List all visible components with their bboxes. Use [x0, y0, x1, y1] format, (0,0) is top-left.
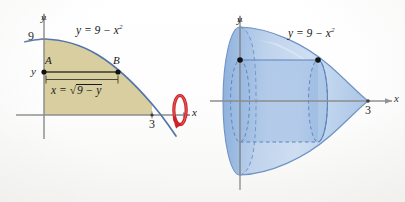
point-b-label: B [113, 55, 120, 66]
x-axis-label: x [192, 107, 197, 118]
figure-root: y x 9 3 y = 9 − x2 A B y x = √9 − y [0, 0, 405, 202]
shell-point-b-dot [315, 57, 321, 63]
curve-equation-text: y = 9 − x [288, 27, 331, 39]
y-axis-label: y [237, 14, 242, 25]
shaded-region [44, 39, 152, 115]
curve-equation-label: y = 9 − x2 [288, 27, 335, 39]
shell-point-a-dot [237, 57, 243, 63]
x-intercept-label: 3 [365, 104, 371, 116]
width-expression-radicand: 9 − y [76, 84, 102, 97]
point-a-label: A [45, 55, 52, 66]
x-axis-arrowhead [385, 98, 392, 104]
point-b-dot [115, 69, 120, 74]
curve-equation-text: y = 9 − x [76, 24, 119, 36]
width-expression-lhs: x = [51, 84, 70, 96]
point-a-dot [41, 69, 46, 74]
width-expression-label: x = √9 − y [51, 84, 102, 97]
y-axis-label: y [41, 12, 46, 23]
height-label: y [31, 66, 36, 77]
plane-region-panel: y x 9 3 y = 9 − x2 A B y x = √9 − y [0, 0, 202, 202]
solid-of-revolution-panel: y x 3 y = 9 − x2 [200, 0, 405, 202]
y-intercept-label: 9 [28, 30, 34, 42]
x-intercept-label: 3 [149, 118, 155, 130]
rotation-arrow-about-x-axis [174, 96, 186, 129]
curve-equation-exponent: 2 [119, 23, 123, 31]
curve-equation-exponent: 2 [331, 26, 335, 34]
curve-equation-label: y = 9 − x2 [76, 24, 123, 36]
x-axis-label: x [394, 93, 399, 104]
